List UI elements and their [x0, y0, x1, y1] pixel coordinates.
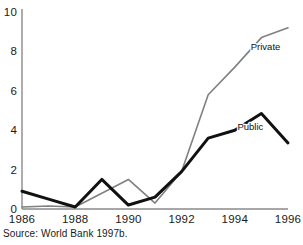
x-axis-tick-label: 1992: [168, 213, 194, 225]
y-axis-tick-label: 10: [4, 6, 17, 18]
x-axis-tick-label: 1986: [9, 213, 35, 225]
series-line-private: [22, 28, 288, 207]
line-chart: 0246810198619881990199219941996PrivatePr…: [0, 0, 303, 245]
series-label-public: Public: [237, 121, 263, 132]
chart-figure: 0246810198619881990199219941996PrivatePr…: [0, 0, 303, 245]
y-axis-tick-label: 6: [10, 85, 17, 97]
y-axis-tick-label: 4: [10, 124, 17, 136]
series-label-private: Private: [251, 41, 281, 52]
y-axis-tick-label: 2: [10, 164, 17, 176]
x-axis-tick-label: 1994: [222, 213, 249, 225]
x-axis-tick-label: 1996: [275, 213, 301, 225]
y-axis-tick-label: 8: [10, 45, 17, 57]
source-note: Source: World Bank 1997b.: [3, 228, 128, 239]
x-axis-tick-label: 1988: [62, 213, 88, 225]
x-axis-tick-label: 1990: [115, 213, 141, 225]
